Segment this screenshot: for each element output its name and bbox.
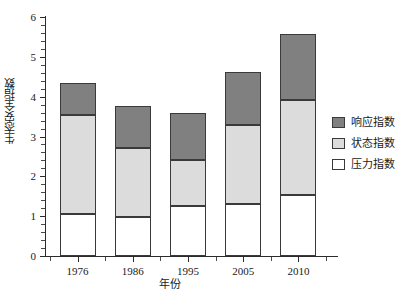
bar-segment[interactable] <box>115 106 151 148</box>
x-axis-tick-label: 2010 <box>287 264 309 278</box>
y-axis-minor-tick <box>41 89 45 90</box>
y-axis-minor-tick <box>41 25 45 26</box>
y-axis-minor-tick <box>41 144 45 145</box>
bar-group[interactable] <box>170 17 206 256</box>
bar-segment[interactable] <box>225 72 261 126</box>
y-axis-minor-tick <box>41 105 45 106</box>
y-axis-minor-tick <box>41 200 45 201</box>
bar-group[interactable] <box>60 17 96 256</box>
legend-item-label: 状态指数 <box>351 138 395 150</box>
y-axis-minor-tick <box>41 184 45 185</box>
y-axis-minor-tick <box>41 152 45 153</box>
bar-segment[interactable] <box>170 160 206 206</box>
x-axis-major-tick <box>133 257 134 262</box>
x-axis-title: 年份 <box>0 278 340 291</box>
y-axis-tick-label: 3 <box>31 129 37 145</box>
bar-segment[interactable] <box>60 83 96 115</box>
y-axis-major-tick: 2 <box>40 176 45 177</box>
legend-item-label: 压力指数 <box>351 159 395 171</box>
y-axis-major-tick: 0 <box>40 256 45 257</box>
x-axis-major-tick <box>298 257 299 262</box>
y-axis-minor-tick <box>41 160 45 161</box>
x-axis-minor-tick <box>105 257 106 261</box>
bar-segment[interactable] <box>280 34 316 100</box>
bar-segment[interactable] <box>170 113 206 161</box>
x-axis-minor-tick <box>50 257 51 261</box>
y-axis-minor-tick <box>41 168 45 169</box>
legend-swatch-icon <box>332 138 345 149</box>
bar-segment[interactable] <box>115 217 151 256</box>
y-axis-tick-label: 4 <box>31 89 37 105</box>
bar-segment[interactable] <box>280 195 316 256</box>
x-axis-minor-tick <box>271 257 272 261</box>
y-axis-minor-tick <box>41 121 45 122</box>
bar-group[interactable] <box>280 17 316 256</box>
y-axis-minor-tick <box>41 232 45 233</box>
x-axis-minor-tick <box>160 257 161 261</box>
x-axis-major-tick <box>243 257 244 262</box>
bar-segment[interactable] <box>280 100 316 196</box>
y-axis-minor-tick <box>41 49 45 50</box>
x-axis-major-tick <box>78 257 79 262</box>
y-axis-minor-tick <box>41 81 45 82</box>
x-axis-major-tick <box>188 257 189 262</box>
x-axis-tick-label: 1995 <box>177 264 199 278</box>
legend-item[interactable]: 响应指数 <box>332 112 402 133</box>
stacked-bar-chart: 0123456 19761986199520052010 生态安全指数 年份 响… <box>0 0 403 295</box>
bar-segment[interactable] <box>225 125 261 204</box>
legend-item-label: 响应指数 <box>351 117 395 129</box>
bar-group[interactable] <box>225 17 261 256</box>
bar-segment[interactable] <box>115 148 151 218</box>
x-axis-tick-label: 1976 <box>67 264 89 278</box>
legend-item[interactable]: 压力指数 <box>332 154 402 175</box>
y-axis-tick-label: 0 <box>31 248 37 264</box>
y-axis-major-tick: 3 <box>40 137 45 138</box>
y-axis-minor-tick <box>41 41 45 42</box>
y-axis-tick-label: 2 <box>31 168 37 184</box>
y-axis-major-tick: 1 <box>40 216 45 217</box>
y-axis-minor-tick <box>41 240 45 241</box>
chart-legend: 响应指数状态指数压力指数 <box>332 112 402 175</box>
y-axis-major-tick: 4 <box>40 97 45 98</box>
y-axis-tick-label: 1 <box>31 208 37 224</box>
y-axis-minor-tick <box>41 113 45 114</box>
y-axis-minor-tick <box>41 192 45 193</box>
plot-area <box>46 17 322 256</box>
legend-swatch-icon <box>332 117 345 128</box>
x-axis-minor-tick <box>216 257 217 261</box>
y-axis-minor-tick <box>41 224 45 225</box>
legend-swatch-icon <box>332 159 345 170</box>
y-axis-major-tick: 5 <box>40 57 45 58</box>
y-axis-minor-tick <box>41 129 45 130</box>
y-axis-minor-tick <box>41 65 45 66</box>
x-axis-tick-label: 1986 <box>122 264 144 278</box>
bar-segment[interactable] <box>225 204 261 256</box>
x-axis-minor-tick <box>326 257 327 261</box>
bar-segment[interactable] <box>60 214 96 256</box>
y-axis-minor-tick <box>41 33 45 34</box>
x-axis-tick-label: 2005 <box>232 264 254 278</box>
y-axis-minor-tick <box>41 73 45 74</box>
bar-segment[interactable] <box>170 206 206 256</box>
y-axis-title: 生态安全指数 <box>4 78 22 144</box>
legend-item[interactable]: 状态指数 <box>332 133 402 154</box>
y-axis-tick-label: 6 <box>31 9 37 25</box>
bar-segment[interactable] <box>60 115 96 215</box>
y-axis-major-tick: 6 <box>40 17 45 18</box>
y-axis-tick-label: 5 <box>31 49 37 65</box>
x-axis-line <box>45 256 338 257</box>
bar-group[interactable] <box>115 17 151 256</box>
y-axis-minor-tick <box>41 208 45 209</box>
y-axis-minor-tick <box>41 248 45 249</box>
